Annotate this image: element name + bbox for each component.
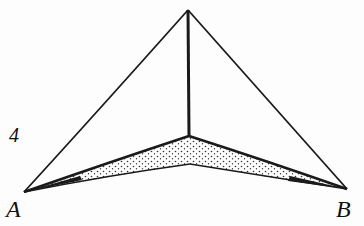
vertical-spine (188, 10, 189, 136)
three-pointed-star-diagram (0, 0, 364, 226)
vertex-label-a: A (6, 196, 21, 223)
vertex-label-b: B (336, 196, 351, 223)
figure-number: 4 (9, 124, 19, 147)
figure-canvas: 4 A B (0, 0, 364, 226)
tip-a-shading (24, 176, 82, 192)
